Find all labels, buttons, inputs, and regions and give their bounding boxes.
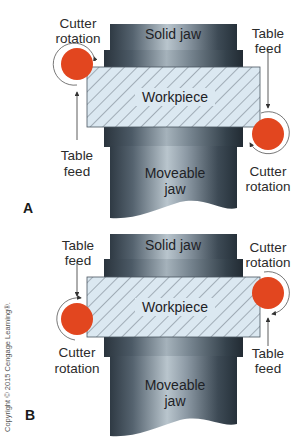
- label-left-top-b-1: Table: [62, 238, 94, 253]
- workpiece-label-a: Workpiece: [142, 89, 208, 105]
- label-left-top-a-1: Cutter: [60, 16, 97, 31]
- cutter-right-b: [252, 277, 284, 309]
- label-left-top-b-2: feed: [65, 253, 91, 268]
- label-right-bottom-a-1: Cutter: [250, 164, 287, 179]
- label-right-bottom-b-1: Table: [252, 346, 284, 361]
- label-right-bottom-b-2: feed: [255, 361, 281, 376]
- panel-a: Solid jaw Workpiece Moveable jaw Cutter …: [23, 16, 291, 218]
- label-right-top-a-1: Table: [252, 26, 284, 41]
- copyright-notice: Copyright © 2015 Cengage Learning®.: [3, 302, 12, 432]
- moveable-jaw-label-a-2: jaw: [163, 181, 186, 197]
- panel-label-b: B: [25, 407, 35, 423]
- panel-b: Solid jaw Workpiece Moveable jaw Table f…: [25, 234, 291, 436]
- panel-label-a: A: [23, 200, 33, 216]
- label-right-bottom-a-2: rotation: [245, 179, 290, 194]
- solid-jaw-step-b: [104, 259, 243, 278]
- cutter-left-a: [61, 48, 93, 80]
- moveable-jaw-step-b: [104, 336, 243, 357]
- label-left-bottom-b-1: Cutter: [59, 345, 96, 360]
- milling-diagram: Solid jaw Workpiece Moveable jaw Cutter …: [0, 0, 307, 439]
- moveable-jaw-label-a-1: Moveable: [145, 165, 206, 181]
- label-right-top-b-1: Cutter: [250, 240, 287, 255]
- solid-jaw-label-a: Solid jaw: [145, 26, 202, 42]
- cutter-right-a: [252, 118, 284, 150]
- cutter-left-b: [61, 303, 93, 335]
- workpiece-label-b: Workpiece: [142, 299, 208, 315]
- label-left-bottom-a-1: Table: [61, 148, 93, 163]
- label-left-bottom-b-2: rotation: [54, 361, 99, 376]
- moveable-jaw-label-b-2: jaw: [163, 393, 186, 409]
- moveable-jaw-step-a: [104, 126, 243, 147]
- label-left-bottom-a-2: feed: [64, 164, 90, 179]
- moveable-jaw-label-b-1: Moveable: [145, 377, 206, 393]
- label-left-top-a-2: rotation: [55, 31, 100, 46]
- label-right-top-a-2: feed: [255, 41, 281, 56]
- solid-jaw-step-a: [104, 50, 243, 68]
- label-right-top-b-2: rotation: [245, 255, 290, 270]
- solid-jaw-label-b: Solid jaw: [145, 237, 202, 253]
